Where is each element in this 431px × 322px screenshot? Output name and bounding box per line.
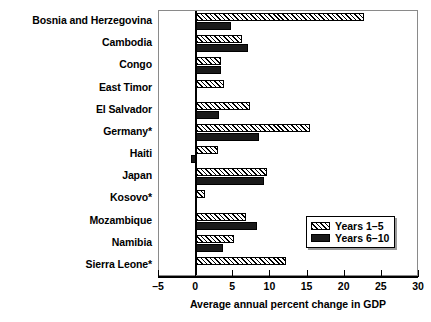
x-tick-label: –5 xyxy=(138,280,178,292)
legend-item-years-6-10: Years 6–10 xyxy=(311,232,389,244)
category-label: East Timor xyxy=(0,82,152,93)
x-tick-label: 5 xyxy=(212,280,252,292)
x-axis-line xyxy=(158,276,418,278)
bar-group xyxy=(159,122,417,144)
x-axis-title: Average annual percent change in GDP xyxy=(158,298,418,310)
bar-years-1-5 xyxy=(196,146,218,154)
bar-years-6-10 xyxy=(196,22,231,30)
bar-years-1-5 xyxy=(196,13,364,21)
x-tick xyxy=(195,270,196,277)
bar-group xyxy=(159,78,417,100)
bar-group xyxy=(159,188,417,210)
category-label: Namibia xyxy=(0,237,152,248)
x-tick-label: 0 xyxy=(175,280,215,292)
category-label: Cambodia xyxy=(0,37,152,48)
bar-years-1-5 xyxy=(196,102,250,110)
bar-years-1-5 xyxy=(196,257,286,265)
bar-years-6-10 xyxy=(196,133,258,141)
category-label: Bosnia and Herzegovina xyxy=(0,15,152,26)
legend-item-years-1-5: Years 1–5 xyxy=(311,220,389,232)
bar-years-1-5 xyxy=(196,213,246,221)
category-label: Sierra Leone* xyxy=(0,259,152,270)
legend-label: Years 1–5 xyxy=(335,220,383,232)
x-tick-label: 30 xyxy=(398,280,431,292)
gdp-change-bar-chart: Bosnia and HerzegovinaCambodiaCongoEast … xyxy=(0,0,431,322)
bar-years-6-10 xyxy=(196,222,257,230)
legend-label: Years 6–10 xyxy=(335,232,389,244)
bar-years-6-10 xyxy=(196,66,221,74)
category-label: El Salvador xyxy=(0,104,152,115)
bar-years-1-5 xyxy=(196,80,223,88)
bar-years-1-5 xyxy=(196,124,310,132)
bar-group xyxy=(159,100,417,122)
bar-group xyxy=(159,166,417,188)
x-tick xyxy=(307,270,308,277)
x-tick-label: 20 xyxy=(324,280,364,292)
bar-years-6-10 xyxy=(191,155,196,163)
x-tick xyxy=(158,270,159,277)
x-tick-label: 25 xyxy=(361,280,401,292)
bar-group xyxy=(159,55,417,77)
x-tick-label: 15 xyxy=(287,280,327,292)
chart-legend: Years 1–5 Years 6–10 xyxy=(306,216,395,248)
bar-years-1-5 xyxy=(196,57,221,65)
x-tick xyxy=(269,270,270,277)
category-label: Congo xyxy=(0,59,152,70)
category-axis-labels: Bosnia and HerzegovinaCambodiaCongoEast … xyxy=(0,10,152,276)
bar-years-6-10 xyxy=(196,244,223,252)
x-tick xyxy=(381,270,382,277)
category-label: Haiti xyxy=(0,148,152,159)
bar-years-1-5 xyxy=(196,35,242,43)
bar-years-1-5 xyxy=(196,235,234,243)
x-tick xyxy=(232,270,233,277)
legend-swatch-hatched-icon xyxy=(311,222,330,230)
legend-swatch-solid-icon xyxy=(311,234,330,242)
bar-years-1-5 xyxy=(196,168,267,176)
bar-group xyxy=(159,11,417,33)
bar-group xyxy=(159,255,417,277)
x-tick-label: 10 xyxy=(249,280,289,292)
bar-years-6-10 xyxy=(196,111,219,119)
category-label: Mozambique xyxy=(0,215,152,226)
x-tick xyxy=(418,270,419,277)
bar-group xyxy=(159,144,417,166)
bar-years-6-10 xyxy=(196,44,248,52)
category-label: Kosovo* xyxy=(0,192,152,203)
category-label: Japan xyxy=(0,170,152,181)
category-label: Germany* xyxy=(0,126,152,137)
bar-years-6-10 xyxy=(196,177,264,185)
bar-group xyxy=(159,33,417,55)
bar-years-1-5 xyxy=(196,190,205,198)
x-tick xyxy=(344,270,345,277)
